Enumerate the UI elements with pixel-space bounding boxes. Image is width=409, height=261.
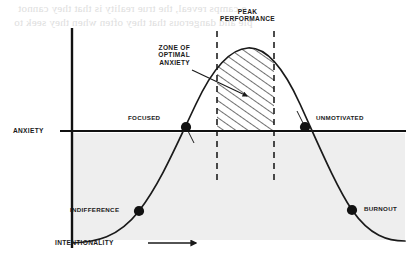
zone-label-line-2: OPTIMAL [118, 51, 190, 58]
lower-shaded-region [72, 133, 405, 240]
chart-canvas [0, 0, 409, 261]
point-marker-burnout [347, 205, 357, 215]
point-label-indifference: INDIFFERENCE [70, 207, 119, 214]
zone-label-line-1: ZONE OF [118, 44, 190, 51]
optimal-anxiety-zone-label: ZONE OF OPTIMAL ANXIETY [118, 44, 190, 66]
point-label-burnout: BURNOUT [364, 206, 397, 213]
peak-performance-label: PEAK PERFORMANCE [205, 8, 290, 23]
y-axis-label: ANXIETY [13, 127, 44, 134]
point-label-unmotivated: UNMOTIVATED [316, 115, 364, 122]
zone-label-line-3: ANXIETY [118, 59, 190, 66]
point-label-focused: FOCUSED [128, 115, 160, 122]
anxiety-intentionality-chart: e camps reveal, the true reality is that… [0, 0, 409, 261]
point-marker-indifference [134, 206, 144, 216]
x-axis-label: INTENTIONALITY [55, 239, 114, 246]
peak-performance-line-1: PEAK [205, 8, 290, 15]
peak-performance-line-2: PERFORMANCE [205, 15, 290, 22]
